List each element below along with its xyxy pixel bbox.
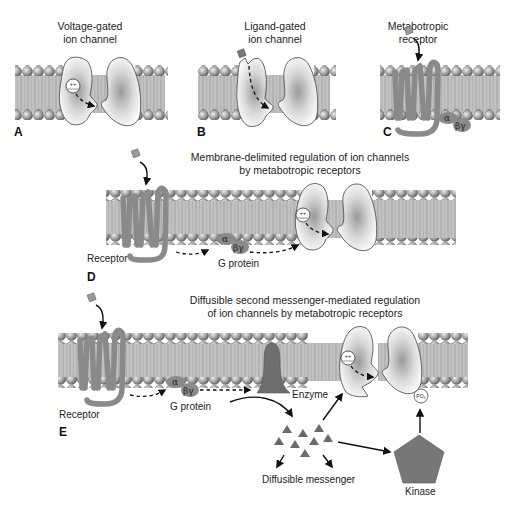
ion-channel-regulation-diagram: Voltage-gated ion channel ++ A Ligand-ga…	[0, 0, 505, 510]
alpha-subunit-label-d: α	[222, 234, 228, 244]
ion-channel-right-e	[382, 327, 421, 394]
messenger-molecule	[282, 425, 292, 433]
diffusion-arrow-right	[323, 455, 332, 467]
kinase	[394, 435, 444, 483]
panel-d-title-line1: Membrane-delimited regulation of ion cha…	[191, 151, 409, 163]
messenger-molecule	[298, 429, 308, 437]
panel-a-title-line2: ion channel	[63, 33, 117, 45]
panel-e-title-line2: of ion channels by metabotropic receptor…	[208, 307, 403, 319]
messenger-molecule	[274, 437, 284, 445]
betagamma-subunit-label-e: βγ	[183, 386, 194, 396]
betagamma-subunit-label-c: βγ	[455, 121, 466, 131]
binding-arrow-e	[96, 305, 103, 328]
binding-arrow-d	[140, 162, 147, 184]
ion-channel-right-d	[337, 184, 376, 251]
panel-c-title-line1: Metabotropic	[388, 20, 449, 32]
receptor-label-e: Receptor	[59, 409, 100, 420]
gprotein-label-e: G protein	[170, 401, 211, 412]
ligand	[131, 149, 140, 158]
voltage-sensor-a: ++	[66, 79, 80, 93]
panel-b-title-line2: ion channel	[248, 33, 302, 45]
panel-c-letter: C	[383, 125, 392, 139]
diffusion-arrow-left	[277, 455, 284, 467]
enzyme-label: Enzyme	[292, 389, 329, 400]
messenger-to-kinase-arrow	[338, 442, 390, 452]
panel-a: Voltage-gated ion channel ++ A	[14, 20, 168, 139]
voltage-sensor-e: ++	[341, 351, 355, 365]
voltage-sensor-d: ++	[296, 208, 310, 222]
messenger-molecule	[300, 449, 310, 457]
charge-label-d: ++	[300, 210, 306, 216]
ligand	[87, 293, 96, 302]
receptor-to-gprotein-arrow-e	[130, 390, 165, 396]
enzyme-product-arrow	[230, 397, 292, 416]
messenger-molecule	[314, 424, 324, 432]
receptor-to-gprotein-arrow-d	[176, 250, 208, 254]
panel-e: Diffusible second messenger-mediated reg…	[58, 293, 468, 497]
alpha-subunit-label-c: α	[444, 113, 450, 123]
diffusible-messenger-molecules	[274, 424, 333, 457]
panel-e-title-line1: Diffusible second messenger-mediated reg…	[190, 294, 421, 306]
kinase-label: Kinase	[405, 486, 436, 497]
receptor-label-d: Receptor	[87, 253, 128, 264]
panel-d-title-line2: by metabotropic receptors	[239, 164, 360, 176]
gprotein-label-d: G protein	[218, 258, 259, 269]
charge-label-e: ++	[345, 353, 351, 359]
messenger-molecule	[323, 434, 333, 442]
panel-d: Membrane-delimited regulation of ion cha…	[87, 149, 456, 284]
gprotein-to-channel-arrow-d	[250, 245, 298, 253]
charge-label-a: ++	[70, 81, 76, 87]
messenger-molecule	[309, 437, 319, 445]
alpha-subunit-label-e: α	[172, 377, 178, 387]
panel-d-letter: D	[87, 270, 96, 284]
messenger-molecule	[290, 440, 300, 448]
panel-a-title-line1: Voltage-gated	[58, 20, 123, 32]
diffusible-messenger-label: Diffusible messenger	[262, 474, 356, 485]
panel-b: Ligand-gated ion channel B	[197, 20, 336, 139]
panel-e-letter: E	[59, 425, 67, 439]
panel-b-title-line1: Ligand-gated	[244, 20, 305, 32]
panel-b-letter: B	[197, 125, 206, 139]
ligand	[237, 49, 246, 58]
phosphate-group: PO₄	[414, 389, 428, 403]
phosphate-label: PO₄	[416, 393, 425, 399]
panel-a-letter: A	[14, 125, 23, 139]
betagamma-subunit-label-d: βγ	[233, 243, 244, 253]
panel-c: Metabotropic receptor α βγ C	[380, 20, 500, 139]
